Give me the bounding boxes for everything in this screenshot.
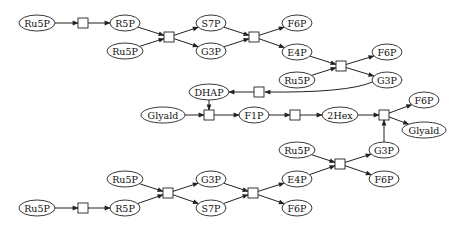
metabolite-label: E4P xyxy=(287,174,307,185)
metabolite-label: DHAP xyxy=(194,87,224,98)
metabolite-label: F6P xyxy=(287,203,307,214)
reaction-edge-arrow xyxy=(312,155,335,163)
reaction-node xyxy=(204,110,214,120)
reaction-node xyxy=(379,110,389,120)
reaction-node xyxy=(336,61,346,71)
metabolite-label: Ru5P xyxy=(112,174,138,185)
metabolite-node: Ru5P xyxy=(107,43,143,59)
metabolite-node: E4P xyxy=(282,44,312,60)
metabolite-label: 2Hex xyxy=(327,110,353,121)
metabolite-node: G3P xyxy=(196,43,226,59)
reaction-edge-arrow xyxy=(174,27,198,35)
metabolite-node: Glyald xyxy=(141,107,185,123)
metabolite-node: F6P xyxy=(369,171,399,187)
metabolite-node: F6P xyxy=(409,92,439,108)
reaction-edge-arrow xyxy=(346,56,374,65)
metabolite-node: Ru5P xyxy=(279,142,315,158)
reaction-edge-arrow xyxy=(173,183,198,191)
metabolite-node: S7P xyxy=(196,200,226,216)
reaction-edge-arrow xyxy=(174,39,198,47)
metabolite-label: R5P xyxy=(115,18,135,29)
metabolite-node: DHAP xyxy=(189,84,229,100)
reaction-edge-arrow xyxy=(259,39,284,48)
metabolite-node: Ru5P xyxy=(107,171,143,187)
reaction-node xyxy=(78,18,88,28)
reaction-edge-arrow xyxy=(310,166,335,175)
metabolite-node: R5P xyxy=(110,15,140,31)
metabolite-node: F6P xyxy=(372,44,402,60)
reaction-node xyxy=(248,188,258,198)
reaction-edge-arrow xyxy=(140,39,164,47)
reaction-square-icon xyxy=(163,188,173,198)
reaction-edge-arrow xyxy=(310,56,336,64)
metabolite-node: E4P xyxy=(282,171,312,187)
metabolite-label: Ru5P xyxy=(284,75,310,86)
reaction-edge-arrow xyxy=(173,195,198,204)
reaction-square-icon xyxy=(249,32,259,42)
metabolite-label: Glyald xyxy=(148,110,179,121)
metabolite-label: G3P xyxy=(374,145,395,156)
metabolite-label: F6P xyxy=(374,174,394,185)
reaction-edge-arrow xyxy=(224,183,248,191)
reaction-node xyxy=(335,159,345,169)
metabolite-label: Ru5P xyxy=(24,203,50,214)
metabolite-node: G3P xyxy=(372,72,402,88)
metabolite-label: G3P xyxy=(201,46,222,57)
metabolite-node: F6P xyxy=(282,15,312,31)
reaction-square-icon xyxy=(164,32,174,42)
reaction-edge-arrow xyxy=(389,105,412,114)
metabolite-node: S7P xyxy=(196,15,226,31)
metabolite-label: R5P xyxy=(115,203,135,214)
reaction-square-icon xyxy=(248,188,258,198)
reaction-node xyxy=(290,110,300,120)
reaction-edge-arrow xyxy=(223,195,248,204)
metabolite-node: F1P xyxy=(239,107,269,123)
reaction-square-icon xyxy=(204,110,214,120)
metabolite-label: E4P xyxy=(287,47,307,58)
metabolite-node: F6P xyxy=(282,200,312,216)
reaction-node xyxy=(78,203,88,213)
reaction-edge-arrow xyxy=(140,184,163,192)
reaction-square-icon xyxy=(78,18,88,28)
reaction-square-icon xyxy=(254,87,264,97)
metabolite-node: G3P xyxy=(369,142,399,158)
reaction-edge-arrow xyxy=(138,27,164,35)
metabolite-node: 2Hex xyxy=(322,107,358,123)
metabolite-label: Ru5P xyxy=(284,145,310,156)
reaction-node xyxy=(254,87,264,97)
reaction-node xyxy=(249,32,259,42)
reaction-edge-arrow xyxy=(138,195,163,204)
reaction-square-icon xyxy=(335,159,345,169)
metabolite-label: Glyald xyxy=(409,125,440,136)
metabolite-label: F6P xyxy=(287,18,307,29)
reaction-edge-arrow xyxy=(258,195,284,204)
reaction-edge-arrow xyxy=(224,39,249,47)
reaction-square-icon xyxy=(379,110,389,120)
metabolite-node: Ru5P xyxy=(19,200,55,216)
reaction-edge-arrow xyxy=(312,68,336,76)
reaction-square-icon xyxy=(336,61,346,71)
reaction-edge-arrow xyxy=(259,27,284,35)
reaction-edge-arrow xyxy=(345,166,371,175)
reaction-edge-arrow xyxy=(224,27,249,35)
reaction-network-diagram: Ru5PR5PRu5PS7PG3PF6PE4PF6PRu5PG3PDHAPGly… xyxy=(0,0,463,230)
metabolite-node: Glyald xyxy=(402,122,446,138)
reaction-square-icon xyxy=(290,110,300,120)
metabolite-node: Ru5P xyxy=(279,72,315,88)
metabolite-label: F6P xyxy=(377,47,397,58)
reaction-edge-arrow xyxy=(345,154,371,162)
reaction-edge-arrow xyxy=(258,183,284,191)
metabolite-label: S7P xyxy=(202,18,222,29)
metabolite-node: R5P xyxy=(110,200,140,216)
reaction-edge-arrow xyxy=(389,117,409,124)
metabolite-node: Ru5P xyxy=(19,15,55,31)
reaction-edge-arrow xyxy=(346,68,374,77)
metabolite-label: S7P xyxy=(202,203,222,214)
reaction-node xyxy=(163,188,173,198)
metabolite-label: F6P xyxy=(414,95,434,106)
metabolite-node: G3P xyxy=(196,171,226,187)
metabolite-label: Ru5P xyxy=(24,18,50,29)
metabolite-label: Ru5P xyxy=(112,46,138,57)
reaction-node xyxy=(164,32,174,42)
metabolite-label: G3P xyxy=(201,174,222,185)
